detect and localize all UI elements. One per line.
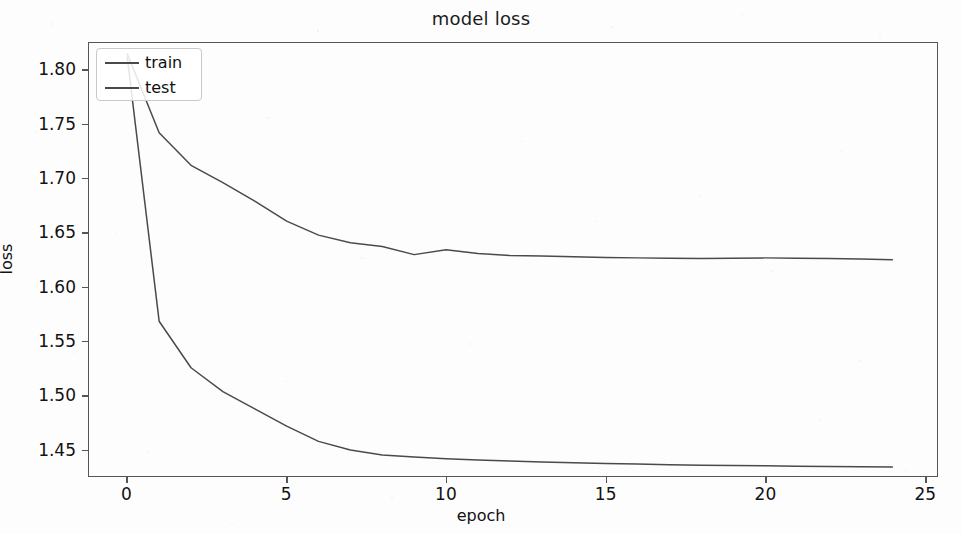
legend-line-swatch [105, 87, 139, 89]
x-axis-tick-label: 5 [281, 484, 292, 504]
y-axis-tick-label: 1.75 [38, 114, 76, 134]
y-axis-tick-label: 1.50 [38, 385, 76, 405]
legend-item-test[interactable]: test [103, 77, 199, 99]
legend-item-train[interactable]: train [103, 52, 199, 74]
x-axis-label: epoch [0, 506, 962, 525]
x-axis-tick-label: 10 [435, 484, 457, 504]
series-lines [89, 43, 937, 476]
x-axis-tick-label: 0 [121, 484, 132, 504]
x-axis-tick-mark [925, 477, 926, 483]
y-axis-label: loss [0, 244, 16, 275]
x-axis-tick-label: 20 [755, 484, 777, 504]
x-axis-tick-mark [606, 477, 607, 483]
x-axis-tick-mark [765, 477, 766, 483]
y-axis-tick-label: 1.45 [38, 440, 76, 460]
y-axis-tick-label: 1.60 [38, 277, 76, 297]
plot-axes [88, 42, 938, 477]
x-axis-tick-label: 25 [914, 484, 936, 504]
y-axis-tick-label: 1.80 [38, 59, 76, 79]
y-axis-tick-label: 1.55 [38, 331, 76, 351]
figure-canvas: model loss 1.451.501.551.601.651.701.751… [0, 0, 962, 534]
y-axis-tick-label: 1.65 [38, 222, 76, 242]
page-title: model loss [0, 8, 962, 29]
line-series-train [127, 57, 892, 467]
legend-item-label: test [145, 78, 176, 98]
legend-box: train test [96, 48, 202, 101]
x-axis-tick-mark [126, 477, 127, 483]
legend-item-label: train [145, 53, 182, 73]
line-series-test [127, 54, 892, 260]
x-axis-tick-mark [446, 477, 447, 483]
legend-line-swatch [105, 62, 139, 64]
x-axis-tick-mark [286, 477, 287, 483]
x-axis-tick-label: 15 [595, 484, 617, 504]
y-axis-tick-label: 1.70 [38, 168, 76, 188]
